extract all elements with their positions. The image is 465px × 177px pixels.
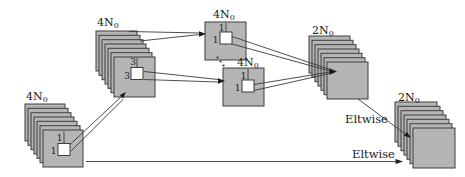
kernel-size-label: 1 [235, 83, 241, 93]
ellipsis-dot [219, 60, 221, 62]
kernel-size-label: 1 [213, 35, 219, 45]
ellipsis-dot [216, 56, 218, 58]
channel-count-label: 2N0 [398, 91, 420, 105]
input-stack: 4N0 1 1 [25, 90, 83, 167]
kernel-window [220, 32, 232, 44]
channel-count-label: 4N0 [26, 90, 48, 104]
channel-count-label: 2N0 [312, 24, 334, 38]
eltwise-label: Eltwise [352, 147, 395, 161]
output-stack: 2N0 [395, 91, 455, 168]
arrowhead [396, 159, 404, 164]
channel-count-label: 4N0 [97, 16, 119, 30]
kernel-size-label: 1 [57, 133, 63, 143]
kernel-size-label: 1 [241, 71, 247, 81]
channel-count-label: 4N0 [213, 8, 235, 22]
merge-stack: 2N0 [309, 24, 368, 99]
kernel-size-label: 1 [219, 23, 225, 33]
connection-line [140, 35, 200, 42]
eltwise-label: Eltwise [345, 112, 388, 126]
connection-line [70, 97, 122, 145]
feature-map-front [413, 128, 455, 168]
kernel-window [242, 80, 254, 92]
conv3-stack: 4N0 3 3 [96, 16, 155, 97]
kernel-window [131, 68, 143, 80]
conv1-top-square: 4N0 1 1 [205, 8, 246, 60]
connection-line [129, 32, 200, 34]
kernel-size-label: 3 [124, 71, 130, 81]
conv1-bottom-square: 4N0 1 1 [223, 56, 264, 106]
kernel-size-label: 3 [130, 57, 136, 67]
figure-canvas: 4N0 1 1 4N0 3 3 4N0 1 1 4N0 [0, 0, 465, 177]
connection-line [71, 99, 124, 151]
network-diagram: 4N0 1 1 4N0 3 3 4N0 1 1 4N0 [0, 0, 465, 177]
kernel-size-label: 1 [51, 146, 57, 156]
ellipsis-dot [222, 64, 224, 66]
channel-count-label: 4N0 [237, 56, 259, 70]
feature-map-front [327, 62, 368, 99]
kernel-window [58, 144, 70, 156]
